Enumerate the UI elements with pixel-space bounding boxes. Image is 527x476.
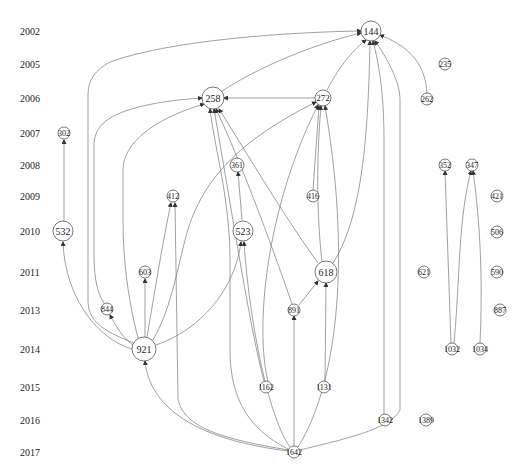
node-label: 590 xyxy=(491,268,503,277)
node-label: 1642 xyxy=(286,448,302,457)
node-label: 1032 xyxy=(444,345,460,354)
year-axis: 2002200520062007200820092010201120132014… xyxy=(20,26,40,458)
edge-262-to-144 xyxy=(380,35,427,93)
edge-1032-to-352 xyxy=(445,171,451,343)
node-label: 506 xyxy=(491,228,503,237)
node-label: 272 xyxy=(316,93,330,103)
year-label: 2010 xyxy=(20,226,40,237)
node-416[interactable]: 416 xyxy=(307,190,319,202)
edge-258-to-144 xyxy=(222,33,361,91)
node-label: 844 xyxy=(101,305,113,314)
node-label: 416 xyxy=(307,192,319,201)
node-label: 412 xyxy=(167,192,179,201)
node-label: 523 xyxy=(236,226,251,237)
node-302[interactable]: 302 xyxy=(58,127,70,139)
node-523[interactable]: 523 xyxy=(233,221,253,241)
edge-1162-to-272 xyxy=(263,105,318,381)
edge-891-to-618 xyxy=(299,281,318,305)
node-label: 144 xyxy=(364,26,379,37)
edge-921-to-258 xyxy=(123,104,204,338)
node-1162[interactable]: 1162 xyxy=(258,381,274,393)
node-label: 1389 xyxy=(418,416,434,425)
year-label: 2017 xyxy=(20,447,40,458)
node-label: 1342 xyxy=(377,416,393,425)
node-label: 532 xyxy=(56,226,71,237)
year-label: 2006 xyxy=(20,93,40,104)
node-1032[interactable]: 1032 xyxy=(444,343,460,355)
node-label: 262 xyxy=(421,95,433,104)
node-235[interactable]: 235 xyxy=(439,58,451,70)
edge-618-to-258 xyxy=(219,109,318,263)
node-1034[interactable]: 1034 xyxy=(472,343,488,355)
edge-891-to-258 xyxy=(216,109,292,304)
year-label: 2009 xyxy=(20,191,40,202)
edge-618-to-272 xyxy=(318,106,322,262)
node-label: 421 xyxy=(491,192,503,201)
node-label: 302 xyxy=(58,129,70,138)
node-1642[interactable]: 1642 xyxy=(286,446,302,458)
edge-921-to-523 xyxy=(156,242,241,345)
edge-1642-to-412 xyxy=(175,203,288,450)
node-label: 235 xyxy=(439,60,451,69)
year-label: 2013 xyxy=(20,305,40,316)
year-label: 2002 xyxy=(20,26,40,37)
node-262[interactable]: 262 xyxy=(421,93,433,105)
year-label: 2005 xyxy=(20,59,40,70)
node-label: 361 xyxy=(231,161,243,170)
year-label: 2008 xyxy=(20,160,40,171)
node-891[interactable]: 891 xyxy=(288,304,300,316)
node-label: 621 xyxy=(418,268,430,277)
year-label: 2014 xyxy=(20,344,40,355)
node-label: 1162 xyxy=(258,383,274,392)
node-label: 347 xyxy=(466,161,478,170)
node-618[interactable]: 618 xyxy=(315,261,337,283)
node-590[interactable]: 590 xyxy=(491,266,503,278)
node-532[interactable]: 532 xyxy=(53,221,73,241)
node-1389[interactable]: 1389 xyxy=(418,414,434,426)
node-887[interactable]: 887 xyxy=(494,304,506,316)
node-label: 887 xyxy=(494,306,506,315)
edge-1642-to-258 xyxy=(210,109,288,449)
year-label: 2015 xyxy=(20,382,40,393)
node-label: 921 xyxy=(137,344,152,355)
node-603[interactable]: 603 xyxy=(139,266,151,278)
node-421[interactable]: 421 xyxy=(491,190,503,202)
node-label: 352 xyxy=(439,161,451,170)
node-1342[interactable]: 1342 xyxy=(377,414,393,426)
node-label: 1131 xyxy=(316,383,332,392)
node-label: 1034 xyxy=(472,345,488,354)
edge-272-to-144 xyxy=(327,40,366,90)
node-144[interactable]: 144 xyxy=(361,21,381,41)
node-1131[interactable]: 1131 xyxy=(316,381,332,393)
node-label: 258 xyxy=(206,93,221,104)
edge-1034-to-347 xyxy=(473,171,481,343)
edge-1342-to-144 xyxy=(373,41,384,414)
node-844[interactable]: 844 xyxy=(101,303,113,315)
node-352[interactable]: 352 xyxy=(439,159,451,171)
node-258[interactable]: 258 xyxy=(202,87,224,109)
nodes-layer: 1442352582722623023613523474124164215325… xyxy=(53,21,506,458)
year-label: 2016 xyxy=(20,415,40,426)
edge-523-to-361 xyxy=(238,172,242,220)
node-921[interactable]: 921 xyxy=(132,337,156,361)
year-label: 2007 xyxy=(20,128,40,139)
node-label: 603 xyxy=(139,268,151,277)
node-412[interactable]: 412 xyxy=(167,190,179,202)
node-361[interactable]: 361 xyxy=(230,158,244,172)
node-506[interactable]: 506 xyxy=(491,226,503,238)
node-621[interactable]: 621 xyxy=(418,266,430,278)
edge-1032-to-347 xyxy=(454,171,471,343)
node-label: 891 xyxy=(288,306,300,315)
node-272[interactable]: 272 xyxy=(315,90,331,106)
year-label: 2011 xyxy=(20,267,40,278)
node-347[interactable]: 347 xyxy=(466,159,478,171)
edge-921-to-532 xyxy=(63,242,132,349)
citation-graph: 2002200520062007200820092010201120132014… xyxy=(0,0,527,476)
edge-1131-to-618 xyxy=(325,283,326,381)
node-label: 618 xyxy=(319,267,334,278)
